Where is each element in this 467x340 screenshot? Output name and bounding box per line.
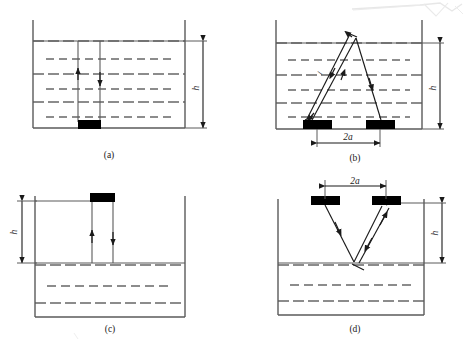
panel-a-liquid-lines xyxy=(33,41,185,117)
figure-root: h (a) xyxy=(0,0,467,340)
panel-a-dimension-h: h xyxy=(185,41,207,128)
panel-b: l 2a h (b) xyxy=(276,20,444,164)
panel-a-h-label: h xyxy=(191,85,201,90)
panel-d-caption: (d) xyxy=(349,324,360,335)
panel-c-beam-guides xyxy=(92,202,113,263)
technical-figure-svg: h (a) xyxy=(0,0,467,340)
panel-a-beam-guides xyxy=(78,41,100,122)
panel-c-dimension-h: h xyxy=(9,201,37,263)
panel-b-ray-path xyxy=(305,34,381,120)
panel-d-dimension-h: h xyxy=(424,203,446,263)
panel-b-dimension-2a: 2a xyxy=(317,129,380,147)
panel-a: h (a) xyxy=(33,20,207,161)
panel-b-ray-arrows xyxy=(309,33,372,119)
panel-b-h-label: h xyxy=(428,85,438,90)
panel-d-ray-path xyxy=(325,201,397,270)
panel-d-2a-label: 2a xyxy=(350,176,360,186)
panel-a-transducer xyxy=(78,120,101,129)
panel-b-caption: (b) xyxy=(349,153,360,164)
panel-c-liquid-lines xyxy=(35,265,185,303)
panel-d: 2a h (d) xyxy=(278,176,446,335)
panel-b-2a-label: 2a xyxy=(343,132,353,142)
panel-c-vessel-walls xyxy=(35,196,185,317)
panel-b-liquid-lines xyxy=(276,43,422,117)
panel-c-h-label: h xyxy=(9,229,19,234)
panel-b-path-label: l xyxy=(316,70,324,75)
panel-d-h-label: h xyxy=(430,230,440,235)
panel-c: h (c) xyxy=(9,193,185,335)
panel-a-caption: (a) xyxy=(104,150,115,161)
panel-d-ray-arrows xyxy=(335,214,386,249)
panel-c-beam-arrows xyxy=(92,230,113,245)
scan-artifact xyxy=(74,3,463,339)
panel-c-transducer xyxy=(90,193,115,202)
panel-d-liquid-lines xyxy=(278,265,424,301)
panel-b-transducer-left xyxy=(303,120,332,129)
panel-b-dimension-h: h xyxy=(422,43,444,129)
panel-b-transducer-right xyxy=(366,120,395,129)
panel-a-beam-arrows xyxy=(78,68,100,86)
panel-c-caption: (c) xyxy=(105,324,116,335)
panel-d-dimension-2a: 2a xyxy=(325,176,386,199)
